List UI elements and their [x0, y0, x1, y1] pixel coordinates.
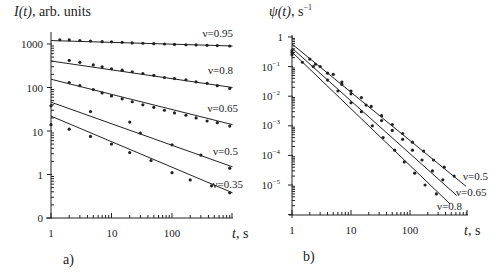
data-point [319, 65, 322, 68]
x-tick-label: 100 [164, 227, 181, 239]
data-point [403, 160, 406, 163]
data-point [184, 78, 187, 81]
data-point [68, 81, 71, 84]
data-point [68, 59, 71, 62]
panel-b: ψ(t), s−1 1 10−1 10−2 10−3 10−4 10−5 1 1… [262, 3, 489, 265]
y-tick-label: 10−3 [262, 118, 281, 131]
y-axis-label-a: I(t), arb. units [13, 4, 91, 20]
y-tick-label: 10 [32, 126, 44, 138]
x-axis-label-a: t, s [232, 226, 248, 241]
data-point [441, 178, 444, 181]
data-point [163, 76, 166, 79]
data-point [312, 65, 315, 68]
data-point [189, 178, 192, 181]
data-point [411, 141, 414, 144]
series-v05 [49, 102, 232, 170]
data-point [152, 42, 155, 45]
x-tick-labels-b: 1 10 100 [289, 224, 419, 236]
data-point [413, 172, 416, 175]
data-point [308, 57, 311, 60]
data-point [382, 136, 385, 139]
series-v08 [51, 59, 233, 90]
data-point [184, 114, 187, 117]
series-labels-a: ν=0.95 ν=0.8 ν=0.65 ν=0.5 ν=0.35 [203, 27, 244, 190]
panel-label-a: a) [63, 252, 74, 268]
data-point [184, 43, 187, 46]
data-point [128, 121, 131, 124]
data-point [194, 116, 197, 119]
data-point [216, 44, 219, 47]
data-point [101, 91, 104, 94]
data-point [360, 110, 363, 113]
data-point [432, 158, 435, 161]
data-point [121, 97, 124, 100]
data-point [128, 151, 131, 154]
data-point [435, 192, 438, 195]
series-group-a [49, 38, 232, 194]
x-tick-label: 100 [402, 224, 419, 236]
data-point [89, 110, 92, 113]
data-point [78, 84, 81, 87]
data-point [340, 83, 343, 86]
data-point [110, 94, 113, 97]
series-v05 [290, 44, 466, 186]
y-tick-label: 10−4 [262, 148, 281, 161]
series-label-v095: ν=0.95 [203, 27, 234, 39]
series-v08 [290, 52, 450, 204]
data-point [131, 41, 134, 44]
series-label-v05: ν=0.5 [463, 170, 488, 182]
y-tick-label: 1 [278, 31, 284, 43]
y-tick-label: 1000 [21, 38, 44, 50]
data-point [391, 123, 394, 126]
data-point [92, 88, 95, 91]
data-point [228, 87, 231, 90]
x-tick-label: 10 [107, 227, 119, 239]
data-point [92, 63, 95, 66]
series-label-v08: ν=0.8 [437, 200, 462, 212]
data-point [152, 74, 155, 77]
y-axis-label-b: ψ(t), s−1 [269, 3, 312, 20]
data-point [110, 40, 113, 43]
data-point [228, 191, 231, 194]
data-point [141, 72, 144, 75]
data-point [121, 69, 124, 72]
series-label-v05: ν=0.5 [213, 145, 238, 157]
fit-line [292, 52, 450, 204]
data-point [170, 143, 173, 146]
series-label-v065: ν=0.65 [456, 186, 487, 198]
data-point [78, 39, 81, 42]
data-point [68, 128, 71, 131]
data-point [49, 104, 52, 107]
data-point [205, 82, 208, 85]
data-point [420, 158, 423, 161]
data-point [228, 124, 231, 127]
data-point [139, 131, 142, 134]
x-tick-label: 1 [289, 224, 295, 236]
data-point [332, 73, 335, 76]
data-point [205, 44, 208, 47]
x-axis-label-b: t, s [464, 223, 480, 238]
series-v065 [290, 48, 456, 195]
data-point [170, 171, 173, 174]
data-point [411, 149, 414, 152]
data-point [380, 114, 383, 117]
data-point [89, 39, 92, 42]
x-tick-labels-a: 1 10 100 [48, 227, 181, 239]
data-point [326, 72, 329, 75]
data-point [326, 78, 329, 81]
fit-line [51, 79, 233, 124]
series-labels-b: ν=0.5 ν=0.65 ν=0.8 [437, 170, 488, 212]
data-point [228, 167, 231, 170]
series-v035 [49, 116, 232, 194]
data-point [131, 70, 134, 73]
data-point [349, 101, 352, 104]
series-label-v035: ν=0.35 [213, 178, 244, 190]
data-point [380, 119, 383, 122]
data-point [443, 166, 446, 169]
y-tick-label: 10−1 [262, 60, 281, 73]
data-point [152, 106, 155, 109]
data-point [163, 109, 166, 112]
data-point [290, 53, 293, 56]
data-point [423, 183, 426, 186]
data-point [431, 169, 434, 172]
